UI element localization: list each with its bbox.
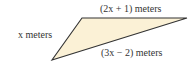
top-side-label: (2x + 1) meters: [100, 3, 161, 14]
left-side-label: x meters: [18, 29, 52, 40]
bottom-side-label: (3x − 2) meters: [101, 47, 162, 58]
triangle-diagram: (2x + 1) meters x meters (3x − 2) meters: [0, 0, 194, 64]
